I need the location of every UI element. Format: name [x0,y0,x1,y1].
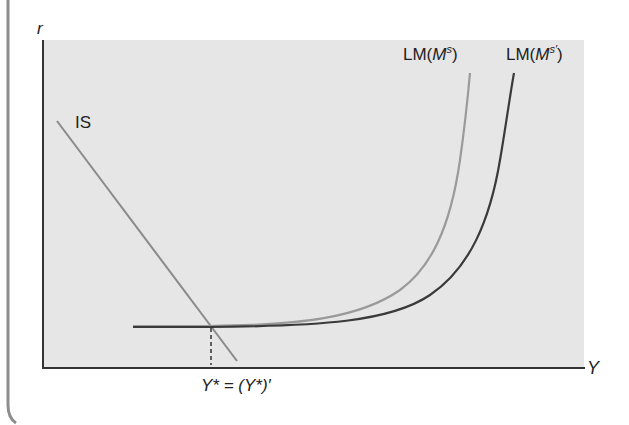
is-lm-diagram: r Y IS LM(Ms) LM(Ms′) Y* = (Y*)′ [0,0,629,425]
left-bracket-rule [8,0,16,423]
is-label: IS [75,113,91,132]
equilibrium-output-label: Y* = (Y*)′ [201,376,272,395]
y-axis-label: r [37,19,44,38]
x-axis-label: Y [587,358,601,378]
